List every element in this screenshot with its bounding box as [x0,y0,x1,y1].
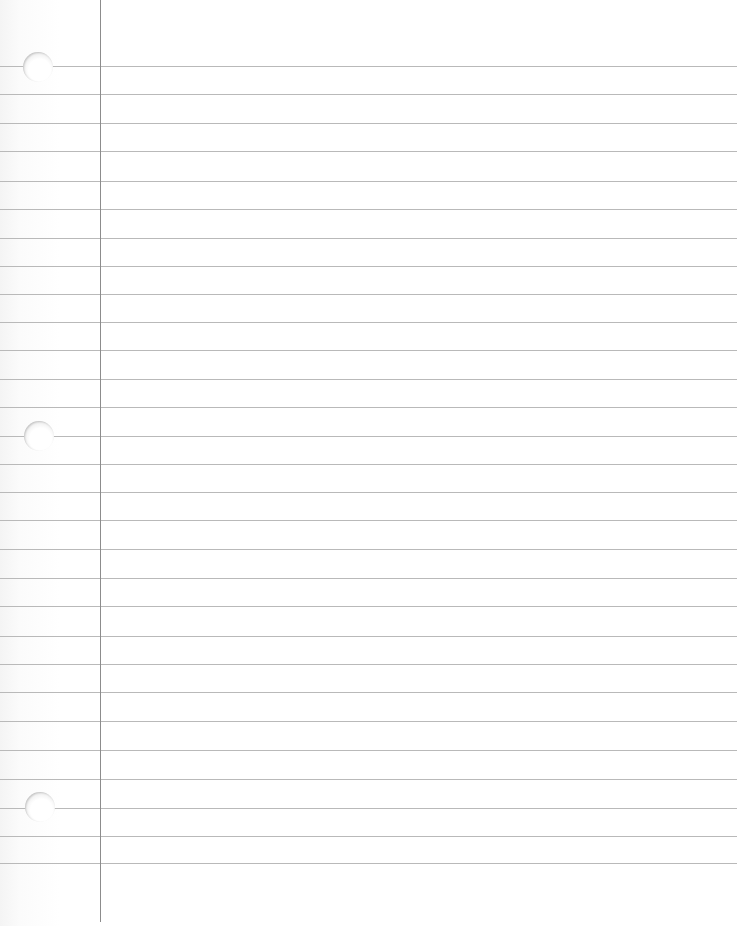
rule-line [0,151,737,152]
rule-line [0,863,737,864]
rule-line [0,464,737,465]
rule-line [0,750,737,751]
rule-line [0,808,737,809]
rule-line [0,692,737,693]
rule-line [0,379,737,380]
rule-line [0,549,737,550]
rule-line [0,294,737,295]
rule-line [0,492,737,493]
rule-line [0,181,737,182]
rule-line [0,721,737,722]
rule-line [0,436,737,437]
rule-line [0,664,737,665]
rule-line [0,520,737,521]
rule-line [0,238,737,239]
rule-line [0,322,737,323]
rule-line [0,94,737,95]
margin-line [100,0,101,922]
rule-line [0,606,737,607]
rule-line [0,350,737,351]
rule-line [0,66,737,67]
notebook-paper [0,0,739,926]
rule-line [0,636,737,637]
rule-line [0,578,737,579]
binder-hole-icon [23,52,53,82]
rule-line [0,836,737,837]
rule-line [0,266,737,267]
rule-line [0,123,737,124]
rule-line [0,407,737,408]
rule-line [0,209,737,210]
rule-line [0,779,737,780]
binder-hole-icon [24,421,54,451]
binder-hole-icon [25,792,55,822]
